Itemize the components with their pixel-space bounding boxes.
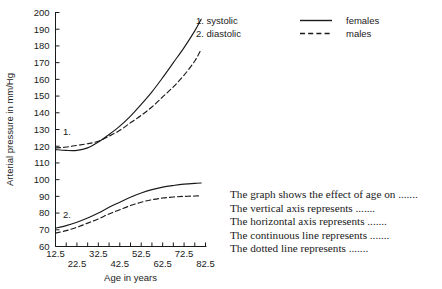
dashed-line-sample bbox=[300, 27, 346, 40]
solid-line-sample bbox=[300, 14, 346, 27]
y-axis-tick-label: 100 bbox=[34, 174, 50, 185]
curve-tag: 1. bbox=[63, 126, 71, 137]
chart-page: 6070809010011012013014015016017018019020… bbox=[0, 0, 442, 289]
x-axis-tick-label: 52.5 bbox=[132, 248, 151, 259]
y-axis-tick-label: 190 bbox=[34, 24, 50, 35]
x-axis-tick-label: 12.5 bbox=[46, 248, 65, 259]
chart-legend: 1. systolic females 2. diastolic males bbox=[196, 14, 442, 40]
series-line-systolic-females bbox=[56, 19, 202, 150]
y-axis-tick-label: 70 bbox=[39, 224, 50, 235]
legend-label-females: females bbox=[346, 14, 379, 27]
x-axis-tick-label: 82.5 bbox=[196, 258, 215, 269]
x-axis-tick-label: 72.5 bbox=[175, 248, 194, 259]
y-axis-title: Arterial pressure in mm/Hg bbox=[4, 73, 15, 186]
arterial-pressure-line-chart: 6070809010011012013014015016017018019020… bbox=[0, 0, 230, 289]
series-line-diastolic-males bbox=[56, 196, 202, 233]
y-axis-tick-label: 160 bbox=[34, 74, 50, 85]
y-axis-tick-label: 120 bbox=[34, 141, 50, 152]
legend-series-number-1: 1. systolic bbox=[196, 14, 300, 27]
prompt-line: The graph shows the effect of age on ...… bbox=[230, 188, 442, 202]
y-axis-tick-label: 170 bbox=[34, 57, 50, 68]
prompt-line: The dotted line represents ....... bbox=[230, 242, 442, 256]
prompt-line: The vertical axis represents ....... bbox=[230, 202, 442, 216]
y-axis-tick-label: 90 bbox=[39, 191, 50, 202]
y-axis-tick-label: 80 bbox=[39, 207, 50, 218]
x-axis-tick-label: 22.5 bbox=[68, 258, 87, 269]
curves-layer bbox=[56, 19, 202, 233]
x-axis-tick-label: 42.5 bbox=[111, 258, 130, 269]
y-axis-tick-label: 150 bbox=[34, 90, 50, 101]
plot-area: 6070809010011012013014015016017018019020… bbox=[0, 0, 230, 289]
curve-tag: 2. bbox=[63, 209, 71, 220]
legend-label-males: males bbox=[346, 27, 371, 40]
series-line-diastolic-females bbox=[56, 183, 202, 228]
prompt-line: The continuous line represents ....... bbox=[230, 229, 442, 243]
legend-row: 1. systolic females bbox=[196, 14, 442, 27]
legend-row: 2. diastolic males bbox=[196, 27, 442, 40]
y-axis-tick-label: 140 bbox=[34, 107, 50, 118]
prompt-line: The horizontal axis represents ....... bbox=[230, 215, 442, 229]
y-axis-tick-label: 180 bbox=[34, 40, 50, 51]
x-axis-tick-label: 62.5 bbox=[153, 258, 172, 269]
y-axis-tick-label: 110 bbox=[34, 157, 49, 168]
x-axis-title: Age in years bbox=[104, 272, 157, 283]
y-axis-tick-label: 200 bbox=[34, 7, 50, 18]
x-axis-tick-label: 32.5 bbox=[89, 248, 108, 259]
y-axis-tick-label: 130 bbox=[34, 124, 50, 135]
question-prompt-block: The graph shows the effect of age on ...… bbox=[230, 188, 442, 256]
series-line-systolic-males bbox=[56, 49, 202, 148]
legend-series-number-2: 2. diastolic bbox=[196, 27, 300, 40]
